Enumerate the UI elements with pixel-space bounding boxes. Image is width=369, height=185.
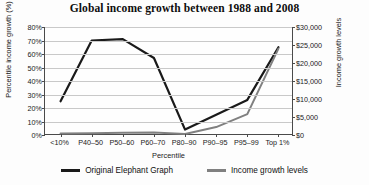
- y-tick-label-right: $15,000: [296, 77, 322, 86]
- y-tick-mark-right: [292, 45, 295, 46]
- legend-item[interactable]: Original Elephant Graph: [61, 166, 173, 175]
- x-tick-mark: [61, 134, 62, 137]
- gridline: [45, 68, 292, 69]
- x-tick-label: P50–60: [109, 138, 134, 147]
- gridline: [45, 122, 292, 123]
- x-axis-title: Percentile: [44, 151, 293, 160]
- y-tick-mark-left: [42, 27, 45, 28]
- y-axis-left-ticks: 0%10%20%30%40%50%60%70%80%: [14, 27, 42, 135]
- y-tick-mark-right: [292, 63, 295, 64]
- x-tick-label: P80–90: [172, 138, 197, 147]
- x-axis-ticks: <10%P40–50P50–60P60–70P80–90P90–95P95–99…: [44, 138, 293, 149]
- y-tick-mark-left: [42, 122, 45, 123]
- y-tick-mark-right: [292, 81, 295, 82]
- x-tick-mark: [92, 134, 93, 137]
- x-tick-mark: [154, 134, 155, 137]
- y-tick-label-left: 10%: [28, 117, 42, 126]
- x-tick-label: P40–50: [78, 138, 103, 147]
- x-tick-mark: [278, 134, 279, 137]
- y-tick-label-right: $30,000: [296, 23, 322, 32]
- y-tick-mark-left: [42, 108, 45, 109]
- y-tick-label-right: $0: [296, 131, 304, 140]
- y-tick-mark-left: [42, 135, 45, 136]
- gridline: [45, 81, 292, 82]
- y-tick-label-left: 0%: [32, 131, 42, 140]
- legend-label: Original Elephant Graph: [85, 166, 173, 175]
- y-tick-label-left: 80%: [28, 23, 42, 32]
- x-tick-mark: [185, 134, 186, 137]
- y-tick-label-left: 30%: [28, 90, 42, 99]
- y-tick-label-right: $10,000: [296, 95, 322, 104]
- y-tick-mark-right: [292, 135, 295, 136]
- x-tick-label: <10%: [50, 138, 69, 147]
- y-tick-mark-left: [42, 68, 45, 69]
- gridline: [45, 41, 292, 42]
- legend-swatch-icon: [207, 169, 226, 172]
- x-tick-mark: [123, 134, 124, 137]
- x-tick-mark: [216, 134, 217, 137]
- gridline: [45, 95, 292, 96]
- y-tick-label-left: 70%: [28, 36, 42, 45]
- y-tick-label-left: 60%: [28, 50, 42, 59]
- y-tick-mark-left: [42, 81, 45, 82]
- y-tick-label-right: $5,000: [296, 113, 318, 122]
- y-tick-label-right: $20,000: [296, 59, 322, 68]
- x-tick-mark: [247, 134, 248, 137]
- y-tick-label-left: 50%: [28, 63, 42, 72]
- y-tick-mark-right: [292, 27, 295, 28]
- plot-area: [44, 27, 293, 135]
- y-axis-left-title: Percentile income growth (%): [4, 0, 13, 110]
- gridline: [45, 54, 292, 55]
- y-tick-mark-right: [292, 99, 295, 100]
- y-axis-right-ticks: $0$5,000$10,000$15,000$20,000$25,000$30,…: [296, 27, 336, 135]
- y-tick-label-left: 40%: [28, 77, 42, 86]
- y-tick-label-left: 20%: [28, 104, 42, 113]
- x-tick-label: P90–95: [203, 138, 228, 147]
- x-tick-label: P95–99: [234, 138, 259, 147]
- legend-label: Income growth levels: [231, 166, 308, 175]
- x-tick-label: Top 1%: [265, 138, 289, 147]
- y-tick-mark-left: [42, 95, 45, 96]
- y-tick-mark-right: [292, 117, 295, 118]
- x-tick-label: P60–70: [141, 138, 166, 147]
- y-tick-label-right: $25,000: [296, 41, 322, 50]
- legend-swatch-icon: [61, 169, 80, 172]
- gridline: [45, 108, 292, 109]
- series-line: [61, 39, 279, 129]
- legend-item[interactable]: Income growth levels: [207, 166, 308, 175]
- gridline: [45, 27, 292, 28]
- y-tick-mark-left: [42, 41, 45, 42]
- chart-legend: Original Elephant GraphIncome growth lev…: [0, 166, 369, 175]
- chart-title: Global income growth between 1988 and 20…: [0, 2, 369, 14]
- chart-container: Global income growth between 1988 and 20…: [0, 0, 369, 185]
- y-tick-mark-left: [42, 54, 45, 55]
